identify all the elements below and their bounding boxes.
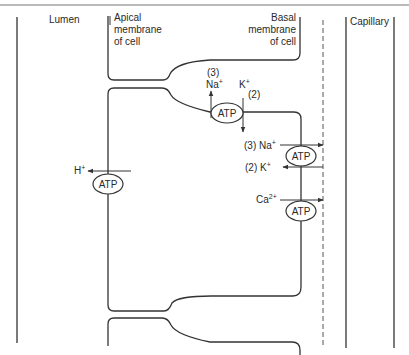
atp-label: ATP <box>292 206 311 217</box>
basal-na-label: (3) Na+ <box>244 139 276 151</box>
ca-label: Ca2+ <box>256 193 277 205</box>
atp-label: ATP <box>218 108 237 119</box>
na-stoich-label: (3) <box>207 67 219 78</box>
atp-label: ATP <box>292 151 311 162</box>
apical-label-line2: membrane <box>114 24 162 35</box>
basal-label-line2: membrane <box>248 24 296 35</box>
k-stoich-label: (2) <box>248 89 260 100</box>
basal-k-label: (2) K+ <box>245 161 271 173</box>
na-k-pump-basal: ATP (3) Na+ (2) K+ <box>244 139 323 173</box>
apical-label-line1: Apical <box>114 12 141 23</box>
lumen-label: Lumen <box>49 14 80 25</box>
epithelial-transport-diagram: Lumen Apical membrane of cell Basal memb… <box>0 0 409 355</box>
apical-label-line3: of cell <box>114 36 140 47</box>
h-label: H+ <box>74 164 85 176</box>
basal-label-line1: Basal <box>271 12 296 23</box>
atp-label: ATP <box>99 179 118 190</box>
ca-pump-basal: ATP Ca2+ <box>256 193 323 221</box>
basal-label-line3: of cell <box>270 36 296 47</box>
na-label: Na+ <box>206 78 223 90</box>
h-pump-apical: ATP H+ <box>74 164 131 194</box>
capillary-label: Capillary <box>350 16 389 27</box>
cell-bottom-outline <box>108 318 300 355</box>
na-k-pump-lateral: ATP (3) Na+ K+ (2) <box>206 67 260 132</box>
